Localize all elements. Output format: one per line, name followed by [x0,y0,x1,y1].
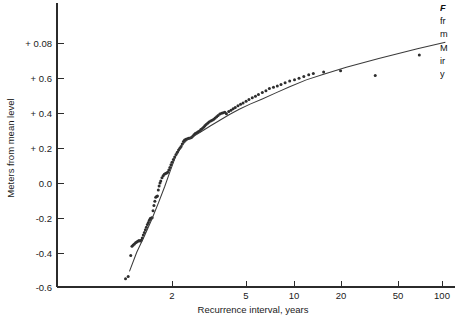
data-point [152,204,155,207]
caption-line: F [440,2,457,15]
data-point [418,54,421,57]
data-point [302,75,305,78]
data-point [247,98,250,101]
data-point [129,254,132,257]
data-point [261,91,264,94]
caption-line: M [440,42,457,55]
data-point [254,95,257,98]
data-point [264,89,267,92]
data-point [158,185,161,188]
x-axis-ticks [172,281,442,287]
x-tick-label: 100 [434,290,450,301]
data-point [234,106,237,109]
data-point [307,73,310,76]
data-point [159,179,162,182]
data-point [236,104,239,107]
y-tick-label: + 0.4 [31,108,52,119]
x-tick-label: 2 [169,290,174,301]
figure-caption: F fr m M ir y [440,2,457,81]
data-point [153,200,156,203]
y-tick-label: + 0.6 [31,73,52,84]
y-tick-label: + 0.2 [31,143,52,154]
data-point [127,275,130,278]
data-point [322,71,325,74]
x-axis-tick-labels: 2 5 10 20 50 100 [169,290,450,301]
data-point [245,100,248,103]
x-tick-label: 10 [289,290,300,301]
x-tick-label: 20 [336,290,347,301]
x-tick-label: 50 [393,290,404,301]
y-axis-tick-labels: + 0.08 + 0.6 + 0.4 + 0.2 0.0 -0.2 -0.4 -… [25,38,52,293]
caption-line: fr [440,15,457,28]
data-point [374,74,377,77]
y-tick-label: -0.4 [36,248,52,259]
series-layer [124,42,445,280]
data-point [312,72,315,75]
data-point [293,78,296,81]
data-point [272,86,275,89]
fit-line [129,42,445,271]
data-point-group [124,54,421,281]
y-axis-ticks [57,43,64,287]
data-point [124,277,127,280]
x-axis-title: Recurrence interval, years [198,304,309,315]
data-point [268,87,271,90]
data-point [257,93,260,96]
data-point [157,188,160,191]
x-tick-label: 5 [243,290,248,301]
data-point [251,96,254,99]
y-tick-label: + 0.08 [25,38,52,49]
data-point [152,209,155,212]
data-point [276,84,279,87]
y-tick-label: 0.0 [39,178,52,189]
data-point [288,80,291,83]
data-point [279,83,282,86]
y-axis-title: Meters from mean level [5,98,16,197]
data-point [298,77,301,80]
y-tick-label: -0.2 [36,213,52,224]
data-point [156,195,159,198]
data-point [225,112,228,115]
caption-line: y [440,68,457,81]
y-tick-label: -0.6 [36,282,52,293]
caption-line: m [440,28,457,41]
data-point [284,81,287,84]
caption-line: ir [440,55,457,68]
scatter-chart: + 0.08 + 0.6 + 0.4 + 0.2 0.0 -0.2 -0.4 -… [0,0,457,318]
figure-container: + 0.08 + 0.6 + 0.4 + 0.2 0.0 -0.2 -0.4 -… [0,0,457,318]
data-point [242,101,245,104]
